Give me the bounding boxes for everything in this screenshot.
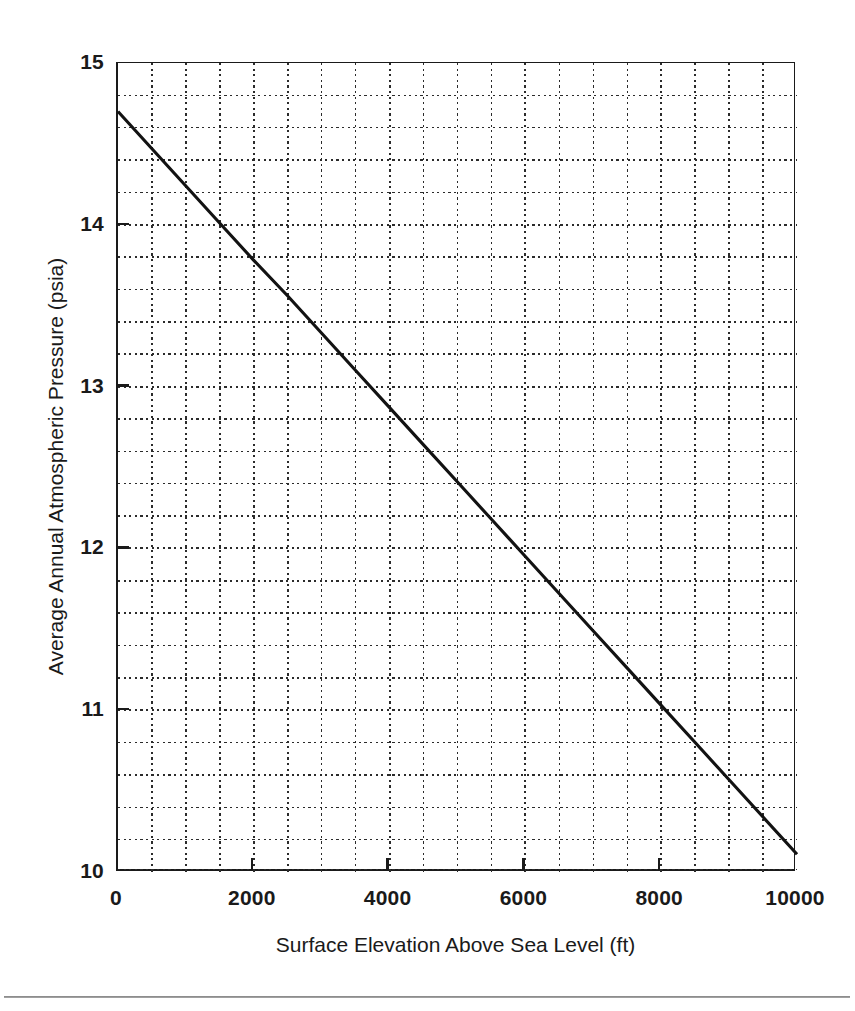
x-tick-label: 10000 bbox=[765, 886, 824, 910]
page-divider-rule bbox=[4, 996, 850, 998]
x-tick-label: 0 bbox=[110, 886, 122, 910]
y-axis-title: Average Annual Atmospheric Pressure (psi… bbox=[44, 62, 68, 871]
x-tick-label: 6000 bbox=[500, 886, 548, 910]
axis-tick-marks bbox=[0, 0, 855, 1011]
x-tick-label: 2000 bbox=[228, 886, 276, 910]
x-tick-label: 8000 bbox=[635, 886, 683, 910]
x-axis-title: Surface Elevation Above Sea Level (ft) bbox=[116, 933, 795, 957]
figure-container: 0200040006000800010000 101112131415 Surf… bbox=[0, 0, 855, 1011]
x-tick-label: 4000 bbox=[364, 886, 412, 910]
